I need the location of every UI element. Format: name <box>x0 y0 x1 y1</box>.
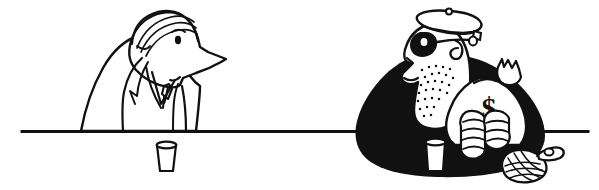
illustration-canvas: $ <box>0 0 599 190</box>
robber-cap-button <box>446 9 452 15</box>
grenade-pull-ring <box>545 149 554 156</box>
robber-eye-highlight <box>421 38 428 46</box>
teller-tie-blade <box>163 97 164 108</box>
cup-left-rim <box>157 142 177 149</box>
cartoon-illustration: $ <box>0 0 599 190</box>
cup-left <box>157 142 177 171</box>
cup-right <box>426 139 446 171</box>
robber-hand-front <box>460 111 485 159</box>
cup-right-rim <box>426 139 446 146</box>
robber-raised-hand <box>497 59 521 85</box>
teller-eye <box>175 36 181 44</box>
robber-mask-buckle <box>469 37 477 46</box>
